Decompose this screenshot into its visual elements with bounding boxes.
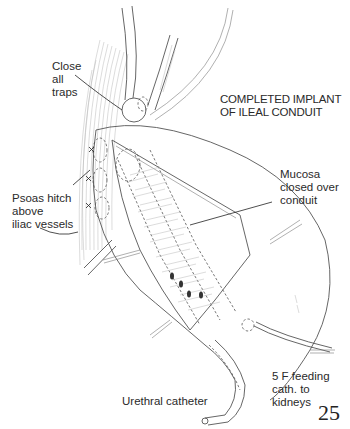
- bladder-outline: [96, 126, 330, 401]
- label-line: conduit: [280, 194, 339, 207]
- label-line: cath. to: [272, 383, 330, 396]
- ureter-right: [148, 35, 170, 105]
- label-line: 5 F feeding: [272, 370, 330, 383]
- stay-sutures: [103, 220, 335, 353]
- trap-closure: [122, 98, 146, 122]
- label-line: traps: [52, 86, 81, 99]
- label-line: Urethral catheter: [122, 395, 208, 407]
- psoas-hitch-sutures: [86, 138, 109, 219]
- feeding-catheter: [254, 326, 330, 352]
- urethral-catheter: [205, 345, 236, 418]
- label-line: above: [12, 205, 73, 218]
- label-mucosa: Mucosa closed over conduit: [280, 168, 339, 207]
- arrow-mucosa: [190, 202, 272, 225]
- label-line: all: [52, 73, 81, 86]
- psoas-muscle-fibers: [79, 40, 128, 265]
- mucosa-hatching: [128, 167, 220, 310]
- surgical-illustration: Close all traps COMPLETED IMPLANT OF ILE…: [0, 0, 350, 429]
- label-psoas-hitch: Psoas hitch above iliac vessels: [12, 192, 73, 231]
- label-close-traps: Close all traps: [52, 60, 81, 99]
- title-line: OF ILEAL CONDUIT: [220, 106, 341, 119]
- label-urethral-catheter: Urethral catheter: [122, 395, 208, 408]
- label-line: Psoas hitch: [12, 192, 73, 205]
- label-line: iliac vessels: [12, 218, 73, 231]
- label-line: Mucosa: [280, 168, 339, 181]
- ureter-left: [122, 8, 127, 100]
- title-line: COMPLETED IMPLANT: [220, 93, 341, 106]
- label-line: closed over: [280, 181, 339, 194]
- label-line: Close: [52, 60, 81, 73]
- page-number: 25: [318, 400, 340, 426]
- figure-title: COMPLETED IMPLANT OF ILEAL CONDUIT: [220, 93, 341, 119]
- ureteral-orifice: [242, 319, 254, 331]
